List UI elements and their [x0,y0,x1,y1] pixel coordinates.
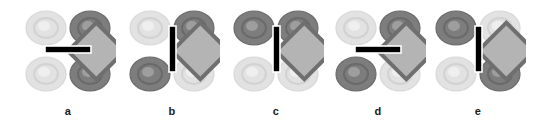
lobe-top-left [26,11,66,45]
lobe-bottom-left [234,57,274,91]
bond-bar-vertical [475,26,482,72]
panel-label-e: e [428,104,528,118]
orbital-overlap-figure: a [0,0,542,132]
bond-bar-vertical [169,26,176,72]
panel-label-d: d [328,104,428,118]
bond-bar-horizontal [355,46,401,53]
panel-a: a [18,0,118,132]
lobe-bottom-left [26,57,66,91]
panel-c: c [226,0,326,132]
panel-label-a: a [18,104,118,118]
lobe-top-left [336,11,376,45]
orbital-diagram-d [330,4,426,98]
lobe-top-left [130,11,170,45]
orbital-diagram-a [20,4,116,98]
panel-label-b: b [122,104,222,118]
lobe-top-left [436,11,476,45]
panel-label-c: c [226,104,326,118]
panel-e: e [428,0,528,132]
bond-bar-vertical [273,26,280,72]
lobe-bottom-left [130,57,170,91]
bond-bar-horizontal [45,46,91,53]
panel-b: b [122,0,222,132]
orbital-diagram-c [228,4,324,98]
lobe-top-left [234,11,274,45]
orbital-diagram-b [124,4,220,98]
orbital-diagram-e [430,4,526,98]
lobe-bottom-left [436,57,476,91]
lobe-bottom-left [336,57,376,91]
panel-d: d [328,0,428,132]
